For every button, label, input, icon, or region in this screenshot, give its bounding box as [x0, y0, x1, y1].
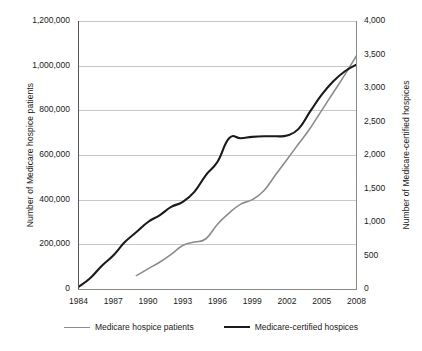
y-axis-left-tick-label: 0	[18, 283, 70, 293]
legend-label: Medicare-certified hospices	[255, 322, 358, 332]
y-axis-right-tick-label: 2,000	[364, 149, 412, 159]
y-axis-right-tick-label: 3,500	[364, 49, 412, 59]
legend-item[interactable]: Medicare-certified hospices	[224, 322, 358, 332]
legend-item[interactable]: Medicare hospice patients	[64, 322, 194, 332]
x-axis-tick-label: 2008	[340, 296, 374, 306]
y-axis-right-tick-label: 4,000	[364, 15, 412, 25]
series-line-medicare-certified-hospices	[79, 65, 357, 287]
x-axis-tick-label: 1999	[235, 296, 269, 306]
x-axis-tick-label: 1993	[166, 296, 200, 306]
y-axis-right-tick-label: 1,500	[364, 183, 412, 193]
plot-area	[78, 21, 357, 290]
y-axis-right-tick-label: 1,000	[364, 216, 412, 226]
y-axis-right-tick-label: 3,000	[364, 82, 412, 92]
y-axis-right-tick-label: 0	[364, 283, 412, 293]
gridlines	[78, 22, 357, 245]
chart-legend: Medicare hospice patientsMedicare-certif…	[0, 322, 422, 332]
legend-label: Medicare hospice patients	[95, 322, 194, 332]
series-line-medicare-hospice-patients	[136, 56, 356, 276]
legend-line-swatch	[64, 327, 90, 328]
y-axis-left-tick-label: 400,000	[18, 194, 70, 204]
x-axis-tick-label: 1987	[96, 296, 130, 306]
y-axis-left-tick-label: 200,000	[18, 238, 70, 248]
x-axis-tick-label: 1996	[201, 296, 235, 306]
legend-line-swatch	[224, 326, 250, 328]
x-axis-tick-label: 2002	[270, 296, 304, 306]
y-axis-left-tick-label: 1,200,000	[18, 15, 70, 25]
y-axis-right-tick-label: 2,500	[364, 116, 412, 126]
x-axis-tick-label: 1990	[131, 296, 165, 306]
y-axis-left-tick-label: 1,000,000	[18, 60, 70, 70]
x-axis-tick-label: 1984	[62, 296, 96, 306]
plot-svg	[78, 21, 357, 290]
y-axis-left-tick-label: 600,000	[18, 149, 70, 159]
chart-figure: Number of Medicare hospice patients Numb…	[0, 0, 422, 351]
y-axis-left-tick-label: 800,000	[18, 104, 70, 114]
x-axis-tick-label: 2005	[305, 296, 339, 306]
y-axis-right-tick-label: 500	[364, 250, 412, 260]
